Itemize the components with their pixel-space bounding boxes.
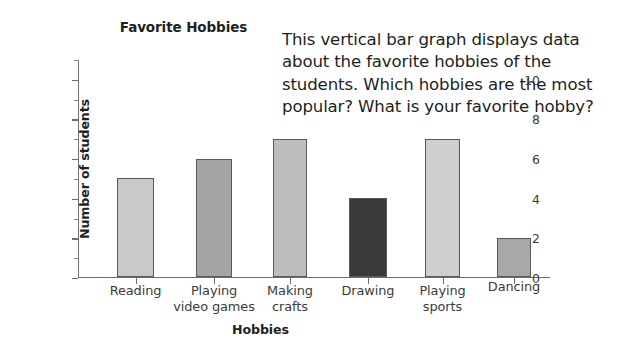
bar-reading bbox=[117, 178, 154, 277]
bar-playing-sports bbox=[425, 139, 460, 278]
y-tick-minor bbox=[74, 139, 78, 140]
y-axis-title: Number of students bbox=[77, 99, 92, 239]
y-tick-minor bbox=[74, 219, 78, 220]
y-tick-major bbox=[72, 278, 78, 279]
y-tick-label: 2 bbox=[532, 231, 540, 246]
x-axis-title: Hobbies bbox=[188, 322, 333, 337]
x-category-label: Dancing bbox=[459, 279, 569, 295]
y-tick-label: 10 bbox=[524, 72, 540, 87]
y-tick-major bbox=[72, 119, 78, 120]
bar-making-crafts bbox=[273, 139, 307, 278]
plot-area: Number of students 0246810 bbox=[78, 60, 550, 278]
bar-playing-video-games bbox=[196, 159, 232, 278]
bar-drawing bbox=[349, 198, 387, 277]
y-tick-major bbox=[72, 238, 78, 239]
y-tick-major bbox=[72, 80, 78, 81]
y-tick-minor bbox=[74, 258, 78, 259]
y-tick-minor bbox=[74, 100, 78, 101]
bar-dancing bbox=[497, 238, 531, 278]
y-tick-label: 4 bbox=[532, 191, 540, 206]
y-tick-label: 6 bbox=[532, 152, 540, 167]
y-tick-minor bbox=[74, 60, 78, 61]
y-tick-minor bbox=[74, 179, 78, 180]
y-tick-major bbox=[72, 159, 78, 160]
y-tick-major bbox=[72, 199, 78, 200]
chart-title: Favorite Hobbies bbox=[96, 19, 271, 35]
y-tick-label: 8 bbox=[532, 112, 540, 127]
bar-chart-figure: Favorite Hobbies This vertical bar graph… bbox=[0, 0, 628, 343]
